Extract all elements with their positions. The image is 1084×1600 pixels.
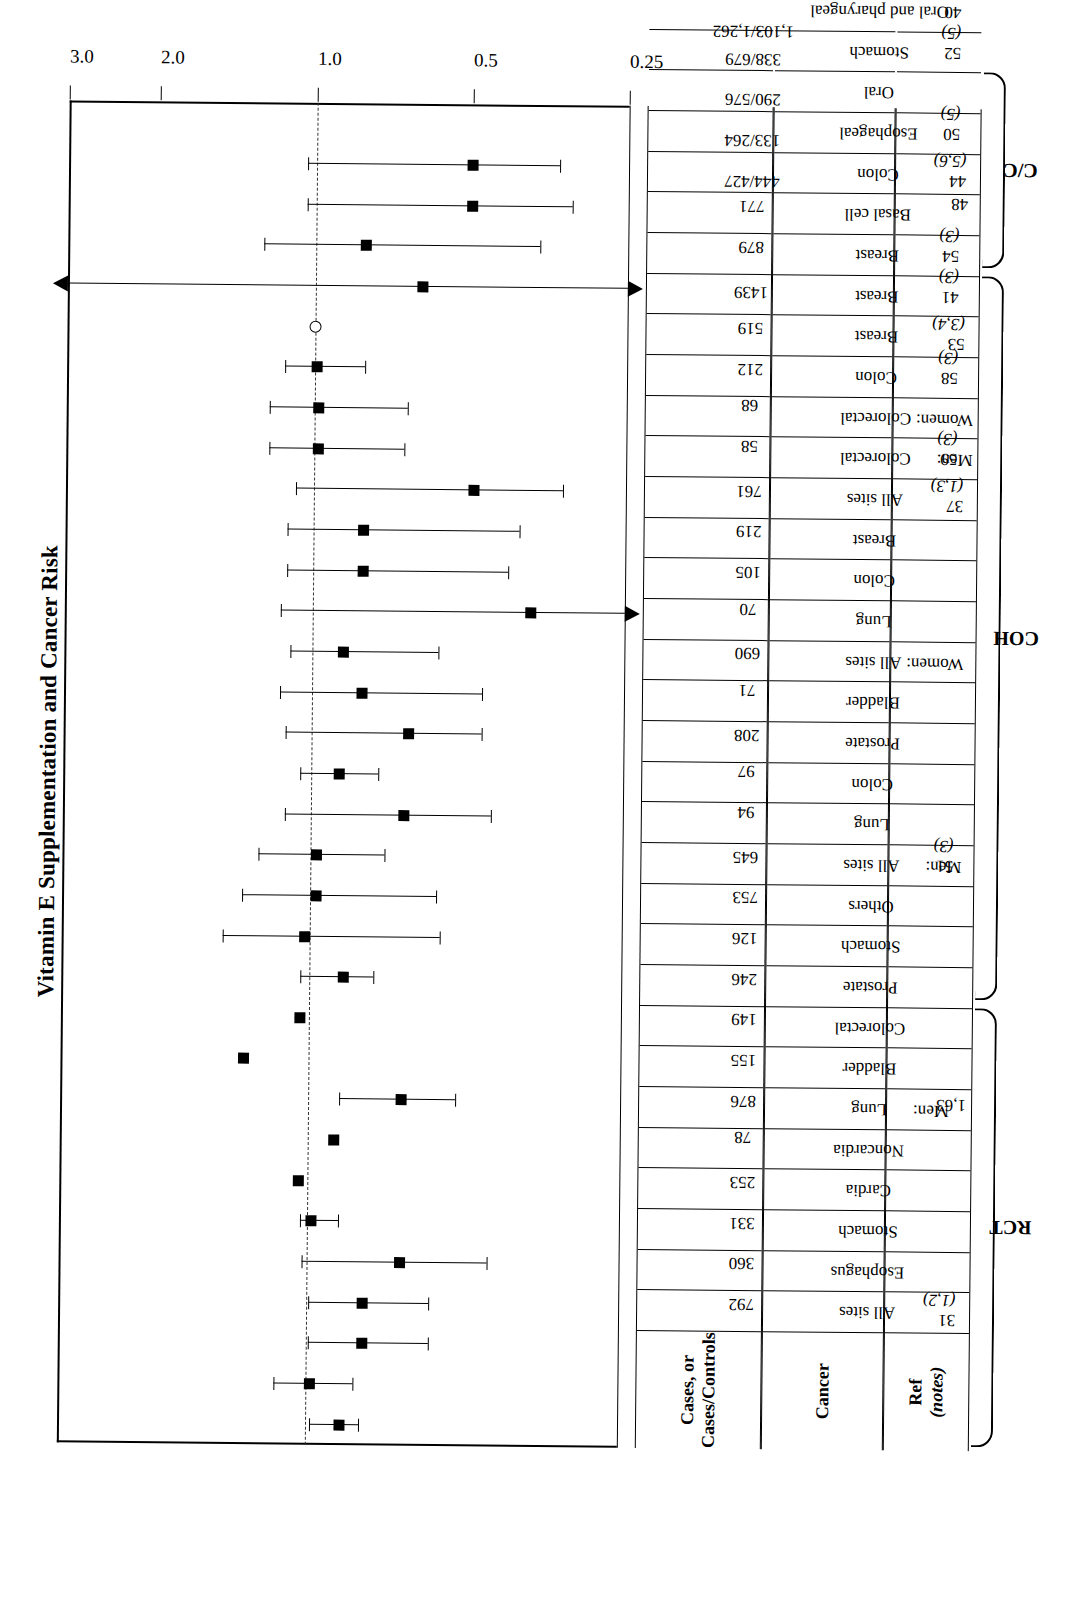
ci-upper-cap xyxy=(264,238,265,251)
cancer-cell: Colon xyxy=(772,355,892,397)
ref-text: 44 (5,6) xyxy=(934,151,967,191)
ci-lower-cap xyxy=(404,443,405,456)
ci-upper-cap xyxy=(288,523,289,536)
cases-cell: 645 xyxy=(641,842,765,884)
ci-lower-cap xyxy=(379,768,380,781)
ref-cell xyxy=(890,763,974,804)
cases-cell: 78 xyxy=(638,1127,762,1169)
ref-cell: 31 (1,2) xyxy=(885,1292,969,1333)
cancer-cell: Stomach xyxy=(764,1209,884,1251)
ref-cell xyxy=(886,1129,970,1170)
cancer-cell: Prostate xyxy=(766,965,886,1007)
cases-cell: 105 xyxy=(644,557,768,599)
cases-text: 58 xyxy=(741,436,758,456)
cancer-cell: Esophagus xyxy=(763,1250,883,1292)
cancer-text: Colon xyxy=(853,570,895,590)
axis-tick xyxy=(317,88,318,102)
cases-text: 155 xyxy=(731,1050,757,1070)
ref-number: 51 xyxy=(933,856,953,876)
cases-text: 360 xyxy=(729,1253,755,1273)
cases-cell: 290/576 xyxy=(649,69,773,111)
ref-text: 48 xyxy=(951,194,968,214)
ref-number: 31 xyxy=(923,1309,956,1329)
ref-cell xyxy=(886,1170,970,1211)
point-estimate-marker xyxy=(394,1257,405,1268)
point-estimate-marker xyxy=(304,1378,315,1389)
axis-tick xyxy=(161,86,162,100)
cancer-text: Lung xyxy=(854,814,890,834)
cases-cell: 1439 xyxy=(647,273,771,315)
ci-lower-cap xyxy=(436,890,437,903)
ci-upper-cap xyxy=(285,360,286,373)
cases-cell: 68 xyxy=(646,395,770,437)
cases-cell: 155 xyxy=(639,1045,763,1087)
point-estimate-marker xyxy=(293,1175,304,1186)
point-estimate-marker xyxy=(333,1419,344,1430)
ref-cell: 50 (5) xyxy=(896,112,980,153)
ref-cell xyxy=(891,682,975,723)
cancer-text: Cardia xyxy=(846,1180,892,1200)
cancer-cell: Esophageal xyxy=(774,111,894,153)
cases-text: 149 xyxy=(731,1009,757,1029)
ref-notes: (5,6) xyxy=(934,151,967,171)
cases-text: 879 xyxy=(738,237,764,257)
ref-number: 52 xyxy=(941,42,961,62)
ref-notes: (1,2) xyxy=(923,1289,956,1309)
ref-number: 54 xyxy=(939,246,959,266)
cases-text: 94 xyxy=(737,802,754,822)
cancer-cell: Men:All sites xyxy=(767,843,887,885)
ci-lower-cap xyxy=(365,361,366,374)
cases-text: 338/679 xyxy=(725,48,781,69)
cancer-text: Colon xyxy=(851,773,893,793)
ref-cell: 37 (1,3) xyxy=(893,478,977,519)
cases-cell: 792 xyxy=(637,1289,761,1331)
cancer-cell: Prostate xyxy=(768,721,888,763)
cases-cell: 71 xyxy=(643,679,767,721)
cancer-cell: Oral and pharyngeal xyxy=(775,0,895,31)
cancer-cell: Cardia xyxy=(764,1168,884,1210)
cancer-cell: Colon xyxy=(774,152,894,194)
cancer-cell: Breast xyxy=(773,274,893,316)
ci-upper-cap xyxy=(308,1296,309,1309)
ref-cell: 1,63 xyxy=(887,1088,971,1129)
point-estimate-marker xyxy=(358,525,369,536)
cases-text: 133/264 xyxy=(724,130,780,151)
ci-upper-cap xyxy=(302,1255,303,1268)
cancer-cell: All sites xyxy=(771,477,891,519)
cases-cell: 246 xyxy=(640,964,764,1006)
cases-cell: 253 xyxy=(638,1167,762,1209)
ref-text: 53 (3,4) xyxy=(932,313,965,353)
cases-text: 331 xyxy=(729,1213,755,1233)
cases-text: 212 xyxy=(737,359,763,379)
point-estimate-marker xyxy=(469,485,480,496)
point-estimate-marker xyxy=(525,608,536,619)
ref-notes: (3,4) xyxy=(932,313,965,333)
point-estimate-marker xyxy=(311,362,322,373)
cancer-text: Colon xyxy=(855,367,897,387)
point-estimate-marker xyxy=(334,769,345,780)
ci-upper-cap xyxy=(309,1418,310,1431)
cancer-label: Lung xyxy=(851,1099,887,1119)
ci-lower-cap xyxy=(520,525,521,538)
cases-cell: 519 xyxy=(646,313,770,355)
ref-number: 40 xyxy=(942,2,962,22)
cancer-cell: Breast xyxy=(773,233,893,275)
ref-number: 53 xyxy=(932,333,965,353)
ci-lower-cap xyxy=(428,1297,429,1310)
ref-number: 41 xyxy=(939,286,959,306)
cases-cell: 1,103/1,262 xyxy=(649,0,773,30)
cancer-text: Others xyxy=(848,895,894,915)
cases-band: Cases, or Cases/Controls 792360331253788… xyxy=(635,106,774,1449)
cancer-cell: Stomach xyxy=(775,30,895,72)
ci-lower-cap xyxy=(338,1215,339,1228)
cases-text: 444/427 xyxy=(724,170,780,191)
ci-lower-cap xyxy=(374,971,375,984)
point-estimate-marker xyxy=(337,972,348,983)
cancer-band: Cancer All sitesEsophagusStomachCardiaNo… xyxy=(761,107,896,1450)
cases-cell: 360 xyxy=(637,1249,761,1291)
cases-cell: 219 xyxy=(644,517,768,559)
ci-upper-cap xyxy=(242,889,243,902)
ci-lower-cap xyxy=(573,200,574,213)
ref-cell xyxy=(892,600,976,641)
ci-lower-cap xyxy=(540,241,541,254)
